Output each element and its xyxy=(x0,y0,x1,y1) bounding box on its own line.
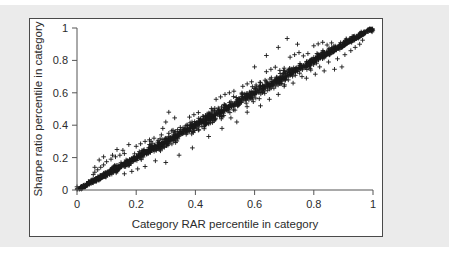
y-tick-label: 0.8 xyxy=(53,54,68,66)
figure-panel: 00.20.40.60.81 00.20.40.60.81 Category R… xyxy=(29,18,383,237)
x-tick-label: 0.8 xyxy=(306,198,321,210)
figure-root: 00.20.40.60.81 00.20.40.60.81 Category R… xyxy=(0,0,455,264)
scatter-marker-path xyxy=(75,27,375,192)
x-tick-label: 0.6 xyxy=(247,198,262,210)
x-tick-label: 0 xyxy=(74,198,80,210)
y-tick-label: 0 xyxy=(62,184,68,196)
y-axis-ticks: 00.20.40.60.81 xyxy=(53,22,77,196)
x-tick-label: 0.2 xyxy=(129,198,144,210)
scatter-markers xyxy=(75,27,375,192)
y-tick-label: 0.4 xyxy=(53,119,68,131)
y-tick-label: 0.2 xyxy=(53,152,68,164)
x-tick-label: 0.4 xyxy=(188,198,203,210)
y-tick-label: 0.6 xyxy=(53,87,68,99)
y-axis-title: Sharpe ratio percentile in category xyxy=(32,21,44,196)
y-tick-label: 1 xyxy=(62,22,68,34)
scatter-plot: 00.20.40.60.81 00.20.40.60.81 Category R… xyxy=(30,19,382,236)
x-axis-title: Category RAR percentile in category xyxy=(132,218,319,230)
x-axis-ticks: 00.20.40.60.81 xyxy=(74,190,376,210)
x-tick-label: 1 xyxy=(370,198,376,210)
